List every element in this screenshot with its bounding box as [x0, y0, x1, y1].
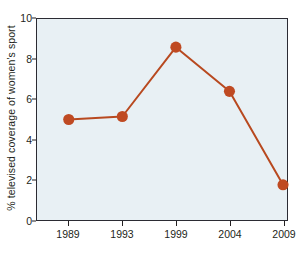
data-point-1993 — [117, 111, 128, 122]
x-tick-label-1989: 1989 — [45, 228, 91, 240]
data-point-1989 — [63, 114, 74, 125]
x-tick-mark-1993 — [122, 221, 123, 226]
x-tick-label-2004: 2004 — [207, 228, 253, 240]
series-markers — [63, 42, 288, 191]
y-tick-label-2: 2 — [14, 174, 32, 186]
x-tick-mark-1989 — [68, 221, 69, 226]
x-tick-mark-2009 — [284, 221, 285, 226]
y-tick-label-4: 4 — [14, 134, 32, 146]
x-tick-mark-1999 — [176, 221, 177, 226]
series-polyline — [69, 47, 283, 185]
chart-figure: % televised coverage of women's sport 0 … — [0, 0, 299, 265]
data-series-line — [37, 19, 287, 220]
x-tick-label-1999: 1999 — [153, 228, 199, 240]
y-tick-label-10: 10 — [14, 12, 32, 24]
y-axis-tick-labels: 0 2 4 6 8 10 — [12, 0, 32, 265]
data-point-2004 — [224, 86, 235, 97]
plot-area — [36, 18, 288, 221]
data-point-1999 — [170, 42, 181, 53]
y-tick-label-0: 0 — [14, 215, 32, 227]
y-tick-label-8: 8 — [14, 53, 32, 65]
x-tick-label-1993: 1993 — [99, 228, 145, 240]
x-tick-mark-2004 — [230, 221, 231, 226]
data-point-2009 — [277, 179, 288, 190]
y-tick-label-6: 6 — [14, 93, 32, 105]
x-tick-label-2009: 2009 — [261, 228, 299, 240]
